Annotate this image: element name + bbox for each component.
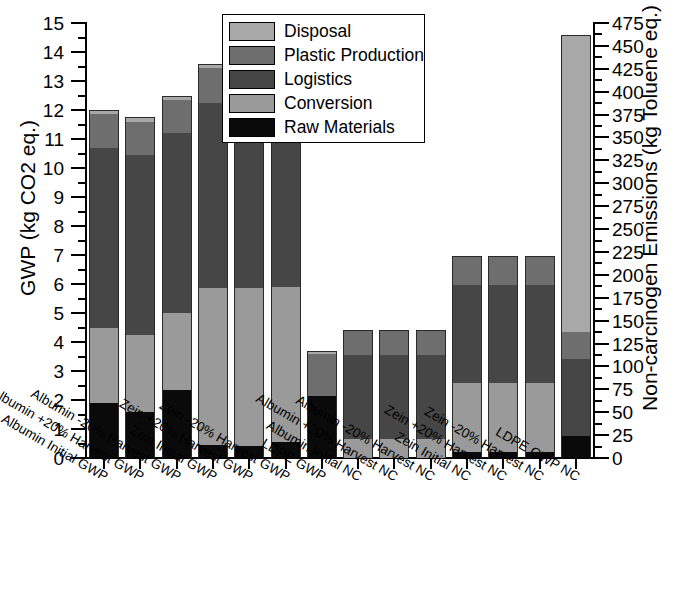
- chart-root: 0123456789101112131415 02550751001251501…: [0, 0, 676, 592]
- bar-segment: [307, 354, 337, 396]
- y-axis-left-tick: [71, 51, 86, 53]
- y-axis-right-tick: [594, 411, 609, 413]
- bar-segment: [452, 256, 482, 285]
- y-axis-right-minor-tick: [594, 171, 602, 173]
- bar-segment: [525, 285, 555, 382]
- y-axis-left-minor-tick: [78, 211, 86, 213]
- y-axis-right-minor-tick: [594, 308, 602, 310]
- y-axis-right-minor-tick: [594, 377, 602, 379]
- bar-segment: [488, 256, 518, 285]
- y-axis-left-minor-tick: [78, 327, 86, 329]
- y-axis-right-minor-tick: [594, 33, 602, 35]
- y-axis-left-minor-tick: [78, 153, 86, 155]
- legend-item-3[interactable]: Conversion: [229, 92, 418, 115]
- bar-segment: [89, 110, 119, 114]
- y-axis-right-minor-tick: [594, 446, 602, 448]
- bar-segment: [162, 96, 192, 100]
- bar-segment: [452, 285, 482, 382]
- y-axis-left-minor-tick: [78, 269, 86, 271]
- bar-segment: [89, 148, 119, 328]
- bar-10[interactable]: [452, 23, 482, 458]
- y-axis-right-tick-label: 0: [612, 449, 623, 468]
- legend-item-4[interactable]: Raw Materials: [229, 116, 418, 139]
- y-axis-left-minor-tick: [78, 66, 86, 68]
- y-axis-right-minor-tick: [594, 262, 602, 264]
- y-axis-right-minor-tick: [594, 331, 602, 333]
- bar-segment: [561, 332, 591, 360]
- bar-segment: [162, 133, 192, 313]
- y-axis-right-tick: [594, 457, 609, 459]
- y-axis-right-tick: [594, 251, 609, 253]
- y-axis-left-tick: [71, 138, 86, 140]
- legend-item-2[interactable]: Logistics: [229, 68, 418, 91]
- bar-segment: [561, 35, 591, 332]
- y-axis-right-minor-tick: [594, 240, 602, 242]
- y-axis-right-tick: [594, 45, 609, 47]
- y-axis-right-tick-label: 25: [612, 426, 633, 445]
- y-axis-right-minor-tick: [594, 148, 602, 150]
- legend-swatch-icon: [229, 22, 275, 41]
- legend-item-1[interactable]: Plastic Production: [229, 44, 418, 67]
- y-axis-left-minor-tick: [78, 95, 86, 97]
- bar-1[interactable]: [125, 23, 155, 458]
- legend-swatch-icon: [229, 94, 275, 113]
- legend-label: Logistics: [284, 71, 352, 89]
- bar-0[interactable]: [89, 23, 119, 458]
- bar-segment: [89, 328, 119, 403]
- bar-segment: [488, 285, 518, 382]
- y-axis-right-tick: [594, 68, 609, 70]
- y-axis-left-tick: [71, 312, 86, 314]
- bar-segment: [307, 351, 337, 354]
- bar-segment: [125, 122, 155, 155]
- bar-segment: [89, 114, 119, 147]
- bar-segment: [162, 100, 192, 133]
- y-axis-right-minor-tick: [594, 125, 602, 127]
- y-axis-left-tick: [71, 225, 86, 227]
- y-axis-right-tick: [594, 182, 609, 184]
- y-axis-right-minor-tick: [594, 217, 602, 219]
- y-axis-right-tick: [594, 22, 609, 24]
- y-axis-left-title: GWP (kg CO2 eq.): [16, 0, 40, 418]
- bar-segment: [379, 330, 409, 355]
- y-axis-left-tick: [71, 196, 86, 198]
- bar-13[interactable]: [561, 23, 591, 458]
- bar-segment: [343, 330, 373, 355]
- y-axis-right-minor-tick: [594, 79, 602, 81]
- y-axis-left-minor-tick: [78, 37, 86, 39]
- y-axis-right-tick: [594, 114, 609, 116]
- y-axis-left-tick: [71, 109, 86, 111]
- y-axis-right-tick-label: 75: [612, 380, 633, 399]
- legend-label: Plastic Production: [284, 47, 424, 65]
- y-axis-left-minor-tick: [78, 124, 86, 126]
- y-axis-left-tick: [71, 254, 86, 256]
- y-axis-right-minor-tick: [594, 354, 602, 356]
- legend-label: Disposal: [284, 23, 351, 41]
- bar-segment: [125, 155, 155, 335]
- bar-12[interactable]: [525, 23, 555, 458]
- y-axis-left-tick: [71, 399, 86, 401]
- bar-11[interactable]: [488, 23, 518, 458]
- y-axis-right-tick-label: 50: [612, 403, 633, 422]
- bar-segment: [416, 330, 446, 355]
- y-axis-right-minor-tick: [594, 423, 602, 425]
- legend-item-0[interactable]: Disposal: [229, 20, 418, 43]
- y-axis-left-tick: [71, 283, 86, 285]
- bar-2[interactable]: [162, 23, 192, 458]
- bar-segment: [162, 313, 192, 390]
- y-axis-right-tick: [594, 320, 609, 322]
- y-axis-left-minor-tick: [78, 182, 86, 184]
- legend-swatch-icon: [229, 70, 275, 89]
- legend-label: Raw Materials: [284, 119, 395, 137]
- y-axis-left-minor-tick: [78, 385, 86, 387]
- y-axis-right-minor-tick: [594, 56, 602, 58]
- y-axis-left-minor-tick: [78, 298, 86, 300]
- y-axis-right-tick: [594, 343, 609, 345]
- y-axis-right-minor-tick: [594, 102, 602, 104]
- y-axis-right-tick: [594, 91, 609, 93]
- y-axis-left-minor-tick: [78, 356, 86, 358]
- y-axis-right-tick: [594, 205, 609, 207]
- y-axis-right-minor-tick: [594, 194, 602, 196]
- bar-segment: [525, 256, 555, 285]
- y-axis-right-tick: [594, 159, 609, 161]
- y-axis-left-tick: [71, 167, 86, 169]
